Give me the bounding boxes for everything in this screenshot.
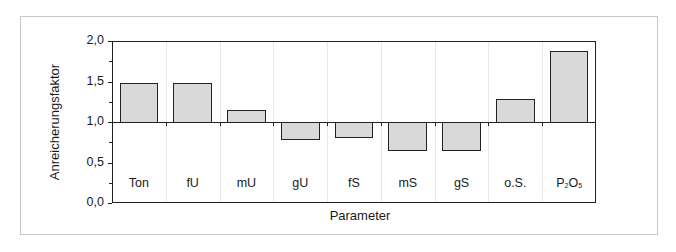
x-category-label-p2o5: P2O5 [542,176,596,193]
x-category-label: o.S. [488,176,542,190]
y-tick [109,102,112,103]
x-tick [542,122,543,126]
x-tick [488,122,489,126]
y-tick-label: 0,5 [70,155,104,169]
y-tick-label: 1,0 [70,114,104,128]
y-tick [109,61,112,62]
x-category-label: fS [327,176,381,190]
x-category-label: mU [220,176,274,190]
x-category-label: gS [435,176,489,190]
y-tick-label: 0,0 [70,195,104,209]
y-tick [109,142,112,143]
x-axis-title: Parameter [300,208,420,223]
x-tick [166,122,167,126]
x-tick [220,122,221,126]
x-tick [327,122,328,126]
y-tick [108,203,112,204]
x-tick [273,122,274,126]
y-tick-label: 1,5 [70,74,104,88]
x-tick [435,122,436,126]
y-tick [108,82,112,83]
y-tick [108,41,112,42]
x-category-label: Ton [112,176,166,190]
y-axis-title: Anreicherungsfaktor [47,64,62,180]
x-category-label: gU [273,176,327,190]
x-category-label: fU [166,176,220,190]
y-tick [108,163,112,164]
y-tick-label: 2,0 [70,33,104,47]
y-tick [108,122,112,123]
x-category-label: mS [381,176,435,190]
x-tick [381,122,382,126]
